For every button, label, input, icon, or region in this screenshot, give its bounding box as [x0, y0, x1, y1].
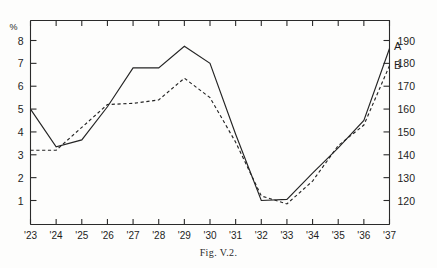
- x-tick-label: '29: [178, 230, 191, 241]
- series-label-b: B: [394, 59, 401, 71]
- y-tick-label-left: 3: [18, 149, 24, 161]
- series-line-b: [31, 66, 390, 204]
- line-chart: '23'24'25'26'27'28'29'30'31'32'33'34'35'…: [0, 0, 437, 268]
- y-tick-label-left: 6: [18, 80, 24, 92]
- y-tick-label-left: 2: [18, 172, 24, 184]
- figure-caption: Fig. V.2.: [0, 247, 437, 258]
- y-tick-label-left: 5: [18, 103, 24, 115]
- y-tick-label-left: 4: [18, 126, 24, 138]
- plot-frame: [31, 21, 390, 225]
- x-tick-label: '27: [127, 230, 140, 241]
- x-tick-label: '35: [332, 230, 345, 241]
- x-tick-label: '34: [306, 230, 319, 241]
- x-tick-label: '26: [101, 230, 114, 241]
- x-tick-label: '24: [50, 230, 63, 241]
- y-axis-unit-label: %: [10, 22, 18, 32]
- y-tick-label-right: 130: [398, 172, 416, 184]
- figure-container: '23'24'25'26'27'28'29'30'31'32'33'34'35'…: [0, 0, 437, 268]
- y-tick-label-right: 140: [398, 149, 416, 161]
- y-tick-label-right: 160: [398, 103, 416, 115]
- x-tick-label: '25: [75, 230, 88, 241]
- y-tick-label-left: 1: [18, 195, 24, 207]
- y-tick-label-right: 150: [398, 126, 416, 138]
- x-tick-label: '36: [357, 230, 370, 241]
- y-tick-label-left: 7: [18, 57, 24, 69]
- x-tick-label: '30: [203, 230, 216, 241]
- x-tick-label: '31: [229, 230, 242, 241]
- x-tick-label: '33: [280, 230, 293, 241]
- y-tick-label-right: 170: [398, 80, 416, 92]
- x-tick-label: '37: [383, 230, 396, 241]
- y-tick-label-left: 8: [18, 35, 24, 47]
- x-tick-label: '28: [152, 230, 165, 241]
- x-tick-label: '32: [255, 230, 268, 241]
- y-tick-label-right: 120: [398, 195, 416, 207]
- series-line-a: [31, 46, 390, 200]
- x-tick-label: '23: [24, 230, 37, 241]
- series-label-a: A: [394, 40, 402, 52]
